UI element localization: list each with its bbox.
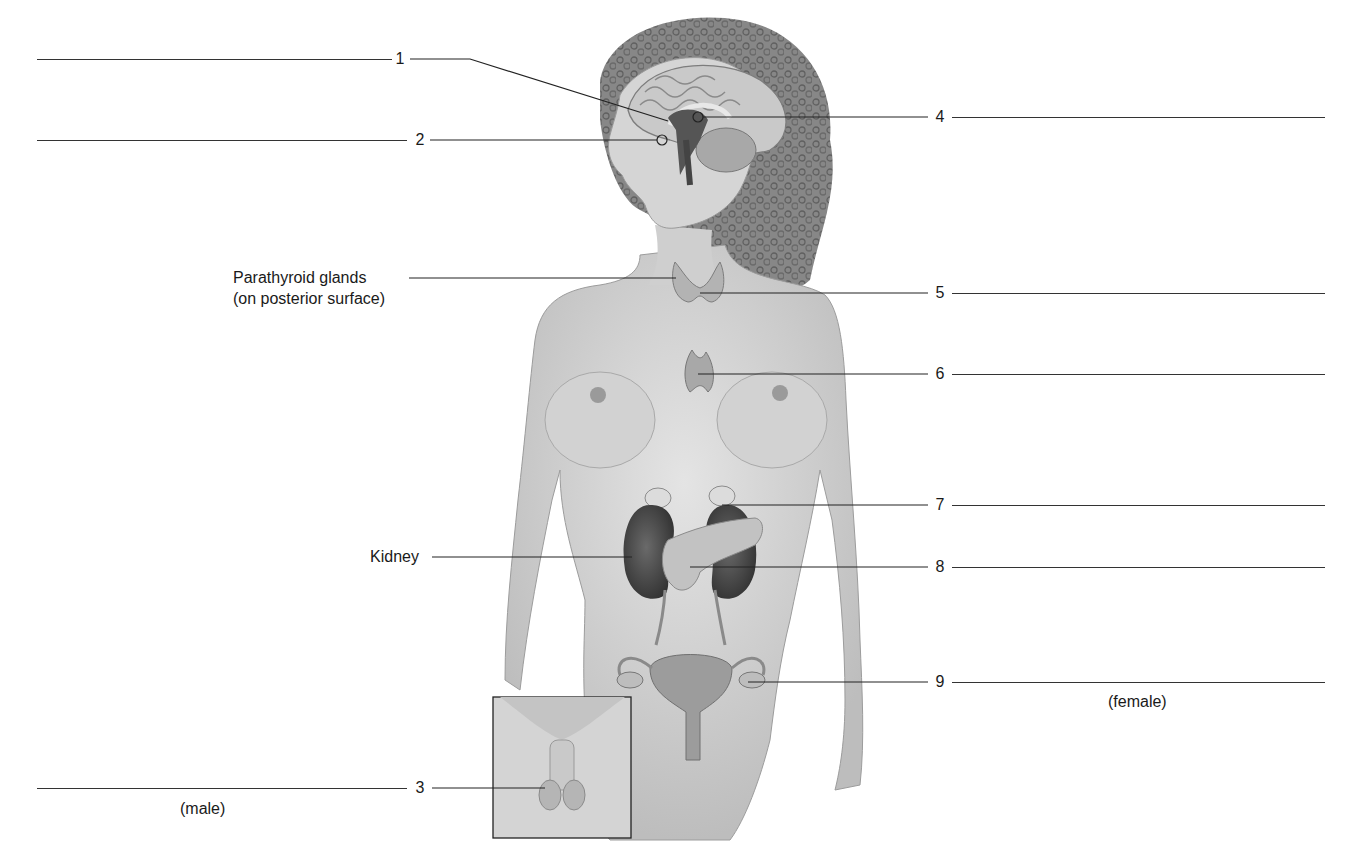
body-illustration bbox=[0, 0, 1360, 868]
label-number-9: 9 bbox=[933, 673, 948, 691]
female-caption: (female) bbox=[1108, 693, 1167, 711]
answer-blank-2[interactable] bbox=[37, 140, 407, 141]
label-number-5: 5 bbox=[933, 284, 948, 302]
kidney-label: Kidney bbox=[370, 548, 419, 566]
answer-blank-1[interactable] bbox=[37, 59, 392, 60]
label-number-1: 1 bbox=[393, 50, 408, 68]
label-number-8: 8 bbox=[933, 558, 948, 576]
answer-blank-9[interactable] bbox=[952, 682, 1325, 683]
answer-blank-6[interactable] bbox=[952, 374, 1325, 375]
parathyroid-label: Parathyroid glands bbox=[233, 269, 366, 287]
label-number-3: 3 bbox=[413, 779, 428, 797]
endocrine-diagram: 1 2 3 4 5 6 7 8 9 Parathyroid glands (on… bbox=[0, 0, 1360, 868]
answer-blank-8[interactable] bbox=[952, 567, 1325, 568]
male-inset bbox=[493, 697, 631, 838]
male-caption: (male) bbox=[180, 800, 225, 818]
parathyroid-sublabel: (on posterior surface) bbox=[233, 290, 385, 308]
label-number-4: 4 bbox=[933, 108, 948, 126]
label-number-6: 6 bbox=[933, 365, 948, 383]
answer-blank-3[interactable] bbox=[37, 788, 407, 789]
label-number-7: 7 bbox=[933, 496, 948, 514]
label-number-2: 2 bbox=[413, 131, 428, 149]
answer-blank-4[interactable] bbox=[952, 117, 1325, 118]
answer-blank-7[interactable] bbox=[952, 505, 1325, 506]
answer-blank-5[interactable] bbox=[952, 293, 1325, 294]
